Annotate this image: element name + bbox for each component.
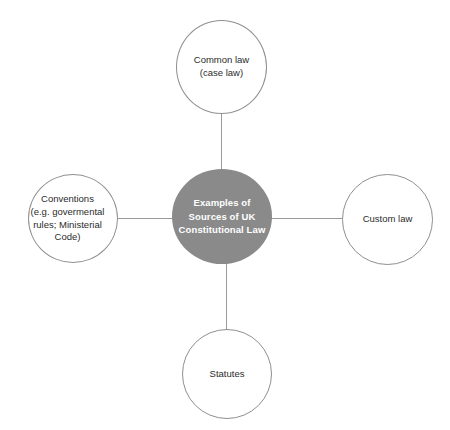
node-custom-law-label: Custom law — [363, 213, 413, 226]
node-common-law-label: Common law (case law) — [194, 54, 249, 79]
node-center-label: Examples of Sources of UK Constitutional… — [179, 196, 266, 237]
connector-center-to-custom-law — [270, 218, 344, 219]
node-conventions-label: Conventions (e.g. govermental rules; Min… — [18, 193, 117, 243]
node-statutes-label: Statutes — [210, 368, 245, 381]
connector-center-to-conventions — [116, 218, 174, 219]
node-statutes[interactable]: Statutes — [182, 329, 272, 419]
node-custom-law[interactable]: Custom law — [342, 174, 433, 265]
node-center-examples-of-sources[interactable]: Examples of Sources of UK Constitutional… — [172, 169, 272, 264]
connector-center-to-common-law — [221, 114, 222, 172]
node-conventions[interactable]: Conventions (e.g. govermental rules; Min… — [28, 174, 118, 263]
connector-center-to-statutes — [226, 262, 227, 330]
diagram-canvas: Examples of Sources of UK Constitutional… — [0, 0, 450, 430]
node-common-law[interactable]: Common law (case law) — [176, 20, 267, 114]
